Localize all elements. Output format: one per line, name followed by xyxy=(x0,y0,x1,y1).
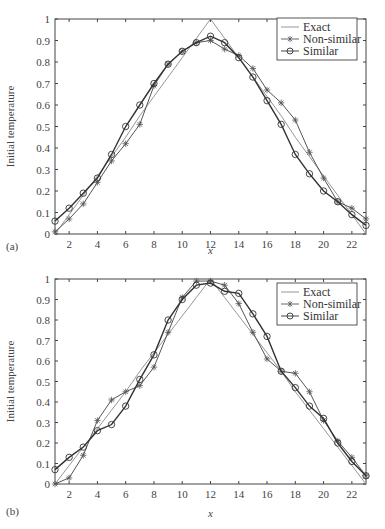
y-tick-label: 0.6 xyxy=(36,355,50,367)
x-tick-label: 2 xyxy=(66,238,72,250)
y-tick-label: 0.1 xyxy=(36,207,50,219)
x-tick-label: 4 xyxy=(95,238,101,250)
y-tick-label: 0.8 xyxy=(36,56,50,68)
x-tick-label: 6 xyxy=(123,238,129,250)
x-axis-title: x xyxy=(207,507,213,519)
x-tick-label: 22 xyxy=(346,488,357,500)
legend: ExactNon-similarSimilar xyxy=(277,18,361,60)
y-tick-label: 0.4 xyxy=(36,142,50,154)
x-tick-label: 10 xyxy=(177,488,189,500)
asterisk-marker-icon xyxy=(250,65,256,71)
x-tick-label: 4 xyxy=(95,488,101,500)
y-tick-label: 0.5 xyxy=(36,121,50,133)
y-tick-label: 0.7 xyxy=(36,335,50,347)
asterisk-marker-icon xyxy=(264,356,270,362)
y-tick-label: 0.9 xyxy=(36,294,50,306)
x-tick-label: 2 xyxy=(66,488,72,500)
legend: ExactNon-similarSimilar xyxy=(277,283,361,325)
x-tick-label: 20 xyxy=(318,238,330,250)
asterisk-marker-icon xyxy=(151,364,157,370)
x-tick-label: 16 xyxy=(262,488,274,500)
y-tick-label: 0.6 xyxy=(36,99,50,111)
x-tick-label: 8 xyxy=(151,238,157,250)
x-tick-label: 6 xyxy=(123,488,129,500)
asterisk-marker-icon xyxy=(221,46,227,52)
y-tick-label: 1 xyxy=(45,273,51,285)
asterisk-marker-icon xyxy=(122,141,128,147)
y-tick-label: 0.3 xyxy=(36,417,50,429)
asterisk-marker-icon xyxy=(306,149,312,155)
y-tick-label: 0.2 xyxy=(36,437,50,449)
x-tick-label: 18 xyxy=(290,488,302,500)
y-tick-label: 0.9 xyxy=(36,35,50,47)
x-tick-label: 10 xyxy=(177,238,189,250)
y-tick-label: 1 xyxy=(45,13,51,25)
asterisk-marker-icon xyxy=(52,229,58,235)
asterisk-marker-icon xyxy=(292,117,298,123)
y-tick-label: 0.5 xyxy=(36,376,50,388)
y-axis-title: Initial temperature xyxy=(4,341,16,423)
asterisk-marker-icon xyxy=(80,201,86,207)
x-tick-label: 18 xyxy=(290,238,302,250)
asterisk-marker-icon xyxy=(363,216,369,222)
panel-label: (b) xyxy=(6,505,19,518)
asterisk-marker-icon xyxy=(306,389,312,395)
y-tick-label: 0.1 xyxy=(36,458,50,470)
chart-panel-a: 00.10.20.30.40.50.60.70.80.9124681012141… xyxy=(4,13,369,256)
figure: 00.10.20.30.40.50.60.70.80.9124681012141… xyxy=(0,0,385,529)
x-tick-label: 16 xyxy=(262,238,274,250)
asterisk-marker-icon xyxy=(66,216,72,222)
asterisk-marker-icon xyxy=(52,481,58,487)
asterisk-marker-icon xyxy=(264,87,270,93)
asterisk-marker-icon xyxy=(250,329,256,335)
asterisk-marker-icon xyxy=(320,175,326,181)
asterisk-marker-icon xyxy=(122,389,128,395)
y-tick-label: 0 xyxy=(45,478,51,490)
chart-panel-b: 00.10.20.30.40.50.60.70.80.9124681012141… xyxy=(4,273,369,519)
x-tick-label: 12 xyxy=(205,488,216,500)
legend-entry: Similar xyxy=(303,44,338,58)
series-similar xyxy=(52,33,369,229)
x-tick-label: 14 xyxy=(233,488,245,500)
x-axis-title: x xyxy=(207,244,213,256)
asterisk-marker-icon xyxy=(292,370,298,376)
asterisk-marker-icon xyxy=(80,452,86,458)
x-tick-label: 8 xyxy=(151,488,157,500)
y-tick-label: 0 xyxy=(45,228,51,240)
y-tick-label: 0.3 xyxy=(36,164,50,176)
y-axis-title: Initial temperature xyxy=(4,86,16,168)
asterisk-marker-icon xyxy=(278,100,284,106)
x-tick-label: 22 xyxy=(346,238,357,250)
asterisk-marker-icon xyxy=(94,417,100,423)
y-tick-label: 0.4 xyxy=(36,396,50,408)
asterisk-marker-icon xyxy=(165,329,171,335)
asterisk-marker-icon xyxy=(349,205,355,211)
x-tick-label: 20 xyxy=(318,488,330,500)
y-tick-label: 0.2 xyxy=(36,185,50,197)
series-non-similar xyxy=(52,37,369,235)
y-tick-label: 0.8 xyxy=(36,314,50,326)
asterisk-marker-icon xyxy=(66,475,72,481)
asterisk-marker-icon xyxy=(221,282,227,288)
x-tick-label: 14 xyxy=(233,238,245,250)
y-tick-label: 0.7 xyxy=(36,78,50,90)
asterisk-marker-icon xyxy=(108,397,114,403)
legend-entry: Similar xyxy=(303,309,338,323)
asterisk-marker-icon xyxy=(137,121,143,127)
asterisk-marker-icon xyxy=(236,300,242,306)
panel-label: (a) xyxy=(6,240,19,253)
